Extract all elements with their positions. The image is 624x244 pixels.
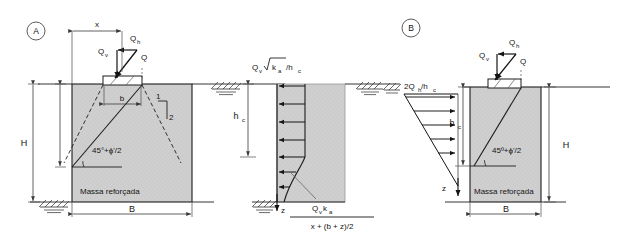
reinforced-mass-block-a	[72, 84, 192, 202]
panel-tag-a-label: A	[33, 26, 39, 36]
hc-sub-label-b: c	[458, 124, 461, 130]
frac-den-middle: x + (b + z)/2	[311, 222, 354, 231]
angle-label-b: 45º+ϕ'/2	[492, 146, 522, 155]
top-formula-denom: /h	[286, 63, 293, 72]
hc-sub-label-middle: c	[242, 117, 245, 123]
slope-rise-label-a: 1	[156, 92, 161, 101]
x-dimension-label-a: x	[95, 20, 99, 29]
panel-tag-b-label: B	[408, 23, 414, 33]
top-formula-b-denom-sub: c	[433, 87, 436, 93]
mass-label-a: Massa reforçada	[80, 187, 140, 196]
qh-sub-label-a: h	[137, 39, 140, 45]
top-formula-b-main: 2Q	[404, 82, 415, 91]
qv-label-a: Q	[98, 47, 104, 56]
q-label-a: Q	[141, 53, 147, 62]
soil-block-middle	[277, 84, 345, 202]
slope-run-label-a: 2	[169, 113, 174, 122]
q-label-b: Q	[520, 57, 526, 66]
top-formula-b-denom: /h	[421, 82, 428, 91]
mass-label-b: Massa reforçada	[474, 187, 534, 196]
angle-label-a: 45°+ϕ'/2	[92, 146, 122, 155]
reinforced-mass-block-b	[470, 87, 541, 202]
footing-b	[488, 79, 521, 88]
top-formula-denom-sub: c	[298, 68, 301, 74]
engineering-figure: A	[0, 0, 624, 244]
h-dimension-label-a: H	[21, 138, 28, 148]
b-width-label-a: B	[129, 204, 135, 214]
top-formula-qv: Q	[252, 63, 258, 72]
qv-sub-label-a: v	[105, 52, 108, 58]
h-label-b: H	[563, 140, 570, 150]
qv-label-b: Q	[479, 51, 485, 60]
hc-label-b: h	[449, 118, 454, 128]
top-formula-qv-sub: v	[259, 68, 262, 74]
z-label-b: z	[442, 184, 446, 193]
b-dimension-label-a: b	[120, 94, 125, 103]
qh-sub-label-b: h	[516, 43, 519, 49]
frac-num-qv: Q	[312, 204, 318, 213]
footing-a	[103, 76, 142, 85]
hc-label-middle: h	[233, 111, 238, 121]
z-label-middle: z	[281, 206, 285, 215]
qv-sub-label-b: v	[486, 56, 489, 62]
qh-label-a: Q	[130, 34, 136, 43]
b-width-label-b: B	[503, 204, 509, 214]
frac-num-qv-sub: v	[319, 209, 322, 215]
qh-label-b: Q	[509, 38, 515, 47]
